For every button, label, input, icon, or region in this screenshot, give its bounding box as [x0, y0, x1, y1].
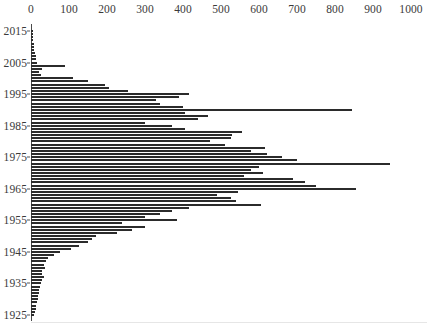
bar — [31, 175, 244, 177]
bar — [31, 264, 44, 266]
bar — [31, 128, 185, 130]
bar — [31, 46, 34, 48]
x-tick-label: 700 — [288, 3, 306, 15]
bar — [31, 144, 225, 146]
bar — [31, 241, 88, 243]
bar — [31, 238, 92, 240]
bar — [31, 156, 282, 158]
bar — [31, 65, 65, 67]
y-tick-label: 1965 — [4, 183, 27, 195]
bar — [31, 36, 33, 38]
bar — [31, 213, 160, 215]
x-tick-label: 100 — [60, 3, 78, 15]
bar — [31, 172, 263, 174]
bar — [31, 87, 109, 89]
bar — [31, 295, 38, 297]
bar — [31, 207, 189, 209]
bar — [31, 311, 35, 313]
bar — [31, 166, 259, 168]
bar — [31, 140, 210, 142]
bar — [31, 178, 293, 180]
bar — [31, 226, 145, 228]
bar — [31, 210, 172, 212]
bar — [31, 153, 267, 155]
bar — [31, 125, 172, 127]
bar — [31, 93, 189, 95]
bar — [31, 308, 36, 310]
bar — [31, 62, 37, 64]
y-tick-label: 2005 — [4, 57, 27, 69]
bar — [31, 169, 251, 171]
bar — [31, 131, 242, 133]
y-tick-mark — [27, 157, 30, 158]
bar-chart: 01002003004005006007008009001000 2015200… — [0, 0, 427, 329]
bar — [31, 251, 60, 253]
bar — [31, 229, 132, 231]
bar — [31, 52, 35, 54]
y-tick-label: 1975 — [4, 151, 27, 163]
bar — [31, 33, 33, 35]
bar — [31, 305, 36, 307]
bar — [31, 118, 198, 120]
bar — [31, 276, 44, 278]
bar — [31, 222, 122, 224]
bar — [31, 68, 42, 70]
y-tick-label: 1995 — [4, 88, 27, 100]
bar — [31, 188, 356, 190]
y-tick-mark — [27, 31, 30, 32]
y-tick-mark — [27, 283, 30, 284]
bar — [31, 30, 33, 32]
bar — [31, 84, 105, 86]
bar — [31, 197, 231, 199]
x-tick-label: 600 — [250, 3, 268, 15]
bar — [31, 279, 42, 281]
bar — [31, 289, 39, 291]
bar — [31, 55, 36, 57]
y-tick-mark — [27, 62, 30, 63]
bar — [31, 134, 232, 136]
bar — [31, 122, 145, 124]
bar — [31, 200, 236, 202]
bar — [31, 99, 156, 101]
y-tick-mark — [27, 125, 30, 126]
bar — [31, 301, 37, 303]
bar — [31, 314, 34, 316]
bar — [31, 257, 48, 259]
bar — [31, 163, 390, 165]
bar — [31, 77, 73, 79]
bar — [31, 96, 179, 98]
bar — [31, 235, 96, 237]
bar — [31, 109, 352, 111]
bar — [31, 245, 79, 247]
bar — [31, 282, 41, 284]
y-tick-label: 1925 — [4, 309, 27, 321]
bar — [31, 159, 297, 161]
bar — [31, 232, 117, 234]
x-tick-label: 900 — [364, 3, 382, 15]
y-tick-mark — [27, 315, 30, 316]
y-tick-label: 2015 — [4, 25, 27, 37]
x-tick-label: 800 — [326, 3, 344, 15]
bar — [31, 267, 45, 269]
x-tick-label: 1000 — [399, 3, 422, 15]
bar — [31, 106, 183, 108]
y-tick-label: 1985 — [4, 120, 27, 132]
bar — [31, 147, 265, 149]
bar — [31, 103, 160, 105]
x-tick-label: 500 — [212, 3, 230, 15]
bar — [31, 292, 39, 294]
y-tick-mark — [27, 251, 30, 252]
bottom-rule — [31, 322, 427, 323]
bar — [31, 219, 177, 221]
bar — [31, 115, 208, 117]
y-tick-label: 1935 — [4, 277, 27, 289]
y-tick-label: 1945 — [4, 246, 27, 258]
bar — [31, 112, 185, 114]
bar — [31, 191, 238, 193]
bar — [31, 286, 40, 288]
bar — [31, 298, 38, 300]
bar — [31, 216, 145, 218]
bar — [31, 43, 34, 45]
bar — [31, 181, 305, 183]
bar — [31, 39, 33, 41]
